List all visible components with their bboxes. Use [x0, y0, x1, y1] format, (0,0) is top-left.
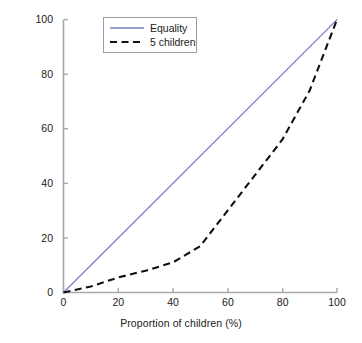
y-tick-label-60: 60 [13, 122, 53, 134]
x-tick-label-40: 40 [153, 296, 193, 308]
legend-entry-5-children: 5 children [109, 35, 191, 49]
x-tick-label-80: 80 [263, 296, 303, 308]
y-tick-label-100: 100 [13, 13, 53, 25]
x-tick-label-60: 60 [208, 296, 248, 308]
legend-label-equality: Equality [150, 22, 187, 34]
legend-label-5-children: 5 children [150, 36, 196, 48]
legend-swatch-5-children-line [109, 36, 145, 48]
y-tick-label-40: 40 [13, 177, 53, 189]
x-tick-label-0: 0 [44, 296, 84, 308]
y-tick-label-80: 80 [13, 68, 53, 80]
y-tick-label-20: 20 [13, 232, 53, 244]
x-tick-label-100: 100 [317, 296, 357, 308]
series-line-equality [64, 20, 338, 293]
x-tick-label-20: 20 [98, 296, 138, 308]
lorenz-curve-figure: 0 20 40 60 80 100 0 20 40 60 80 100 Prop… [0, 0, 362, 343]
legend-swatch-equality-line [109, 22, 145, 34]
chart-legend: Equality 5 children [103, 17, 197, 53]
x-axis-label: Proportion of children (%) [0, 317, 362, 329]
legend-entry-equality: Equality [109, 21, 191, 35]
